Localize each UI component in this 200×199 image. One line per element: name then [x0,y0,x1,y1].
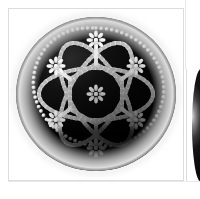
thumbnail-cell[interactable] [8,8,184,181]
adjacent-thumbnail-cell[interactable] [186,69,200,182]
grid-rule-horizontal [8,181,185,182]
beaded-dome-graphic [9,9,183,180]
beaded-dome-image [9,9,183,180]
dome-rim-light [16,17,176,171]
gallery-viewport [0,0,200,199]
grid-rule-horizontal-right [186,181,200,182]
grid-rule-vertical-upper [185,0,186,69]
adjacent-thumbnail-object [192,69,200,182]
